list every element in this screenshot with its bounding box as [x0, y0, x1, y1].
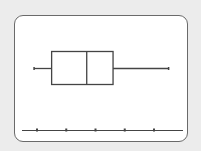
box-and-whisker — [34, 52, 169, 85]
axis-tick — [36, 129, 38, 132]
axis-tick — [124, 129, 126, 132]
axis-tick — [65, 129, 67, 132]
box-plot — [0, 0, 201, 151]
axis-tick — [153, 129, 155, 132]
axis-tick — [95, 129, 97, 132]
box — [52, 52, 113, 85]
x-axis — [22, 129, 183, 132]
